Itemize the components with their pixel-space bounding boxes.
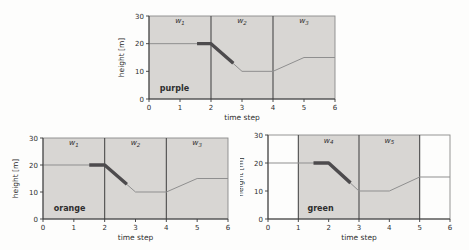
y-tick-label: 0 bbox=[140, 96, 144, 104]
x-tick-label: 6 bbox=[333, 104, 338, 112]
y-tick-label: 10 bbox=[254, 188, 263, 196]
x-tick-label: 4 bbox=[271, 104, 276, 112]
x-axis-label: time step bbox=[118, 233, 154, 242]
chart-orange: w1w2w3orange01234560102030time stepheigh… bbox=[0, 125, 245, 250]
y-axis-label: height [m] bbox=[117, 38, 126, 78]
x-tick-label: 0 bbox=[266, 224, 270, 232]
chart-svg-orange: w1w2w3orange01234560102030time stepheigh… bbox=[0, 125, 245, 250]
x-tick-label: 0 bbox=[41, 224, 45, 232]
x-tick-label: 2 bbox=[209, 104, 213, 112]
window-region-w2 bbox=[211, 16, 273, 99]
y-axis-label: height [m] bbox=[11, 159, 20, 199]
chart-purple: w1w2w3purple01234560102030time stepheigh… bbox=[110, 0, 362, 125]
chart-title-purple: purple bbox=[160, 84, 190, 93]
x-tick-label: 5 bbox=[302, 104, 306, 112]
y-tick-label: 0 bbox=[34, 216, 38, 224]
x-tick-label: 1 bbox=[178, 104, 182, 112]
x-axis-label: time step bbox=[341, 233, 377, 242]
x-tick-label: 6 bbox=[448, 224, 453, 232]
x-tick-label: 2 bbox=[102, 224, 106, 232]
x-axis-label: time step bbox=[224, 113, 260, 122]
y-axis-label: height [m] bbox=[240, 157, 245, 197]
y-tick-label: 30 bbox=[254, 132, 263, 140]
x-tick-label: 1 bbox=[296, 224, 300, 232]
x-tick-label: 3 bbox=[133, 224, 137, 232]
y-tick-label: 0 bbox=[259, 216, 263, 224]
y-tick-label: 30 bbox=[29, 135, 38, 143]
window-region-w5 bbox=[359, 135, 420, 219]
chart-svg-green: w4w5green01234560102030time stepheight [… bbox=[240, 125, 469, 250]
y-tick-label: 20 bbox=[135, 40, 144, 48]
chart-svg-purple: w1w2w3purple01234560102030time stepheigh… bbox=[110, 0, 362, 125]
x-tick-label: 4 bbox=[164, 224, 169, 232]
y-tick-label: 10 bbox=[29, 189, 38, 197]
x-tick-label: 6 bbox=[226, 224, 231, 232]
x-tick-label: 5 bbox=[417, 224, 421, 232]
x-tick-label: 3 bbox=[357, 224, 361, 232]
chart-title-green: green bbox=[307, 204, 334, 213]
chart-title-orange: orange bbox=[54, 204, 86, 213]
x-tick-label: 3 bbox=[240, 104, 244, 112]
y-tick-label: 20 bbox=[29, 162, 38, 170]
x-tick-label: 5 bbox=[195, 224, 199, 232]
x-tick-label: 4 bbox=[387, 224, 392, 232]
figure-canvas: w1w2w3purple01234560102030time stepheigh… bbox=[0, 0, 469, 250]
y-tick-label: 30 bbox=[135, 13, 144, 21]
x-tick-label: 0 bbox=[147, 104, 151, 112]
y-tick-label: 20 bbox=[254, 160, 263, 168]
chart-green: w4w5green01234560102030time stepheight [… bbox=[240, 125, 469, 250]
y-tick-label: 10 bbox=[135, 68, 144, 76]
window-region-w2 bbox=[105, 138, 167, 219]
x-tick-label: 1 bbox=[72, 224, 76, 232]
x-tick-label: 2 bbox=[326, 224, 330, 232]
